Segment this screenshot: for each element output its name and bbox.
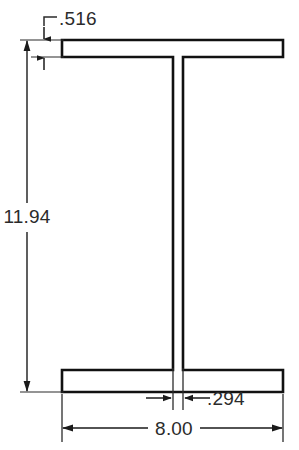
overall-depth-arrowhead-bottom bbox=[24, 381, 31, 392]
overall-depth-arrowhead-top bbox=[24, 40, 31, 51]
overall-depth-label: 11.94 bbox=[3, 206, 50, 227]
flange-thickness-leader-line bbox=[44, 17, 57, 26]
web-thickness-label: .294 bbox=[207, 388, 245, 409]
technical-drawing-canvas: .516 11.94 .294 bbox=[0, 0, 299, 450]
i-beam-outline bbox=[62, 40, 283, 392]
flange-width-arrowhead-left bbox=[62, 425, 73, 432]
flange-width-label: 8.00 bbox=[155, 418, 193, 439]
i-beam-cross-section-drawing: .516 11.94 .294 bbox=[0, 0, 299, 450]
flange-thickness-label: .516 bbox=[59, 8, 97, 29]
flange-width-arrowhead-right bbox=[272, 425, 283, 432]
i-beam-profile bbox=[62, 40, 283, 392]
overall-depth-dimension: 11.94 bbox=[3, 40, 64, 392]
